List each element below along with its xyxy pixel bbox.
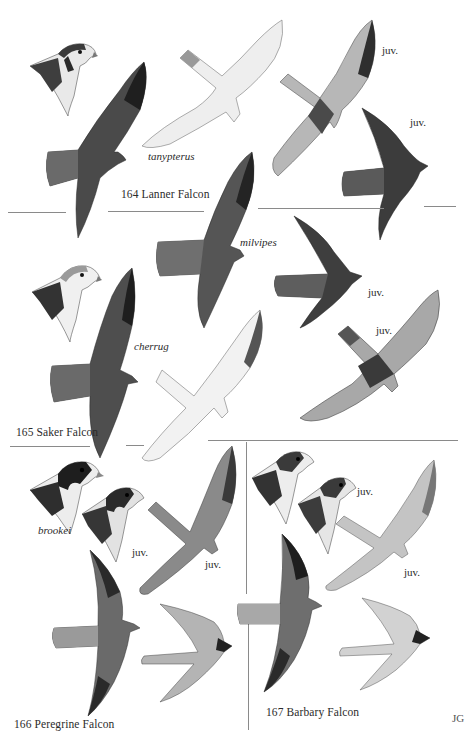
section-divider [258,208,384,209]
saker-juvenile-underside-illustration [298,288,446,424]
juvenile-label: juv. [410,116,426,128]
barbary-adult-upperside-illustration [236,532,324,692]
species-title-peregrine-falcon: 166 Peregrine Falcon [14,718,114,730]
saker-pale-underside-illustration [140,308,268,462]
peregrine-adult-upperside-illustration [50,548,144,716]
peregrine-adult-underside-illustration [140,602,236,702]
peregrine-juvenile-underside-illustration [136,444,240,596]
juvenile-label: juv. [376,324,392,336]
juvenile-label: juv. [205,558,221,570]
section-divider [424,206,456,207]
subspecies-label-brookei: brookei [38,524,71,536]
field-guide-plate: tanypterus juv. juv. 164 Lanner Falcon m… [0,0,465,748]
artist-signature: JG [452,712,464,724]
section-divider [8,212,66,213]
barbary-adult-underside-illustration [338,596,434,690]
juvenile-label: juv. [382,44,398,56]
species-title-saker-falcon: 165 Saker Falcon [16,426,98,438]
juvenile-label: juv. [404,566,420,578]
section-divider [108,211,204,212]
barbary-juvenile-underside-illustration [322,458,440,592]
lanner-tanypterus-underside-illustration [140,18,285,150]
section-divider [10,446,90,447]
species-title-barbary-falcon: 167 Barbary Falcon [266,706,359,718]
section-divider [208,440,458,441]
